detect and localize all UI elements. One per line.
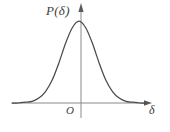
figure-container: P(δ) O δ	[0, 0, 170, 132]
gaussian-curve	[12, 21, 146, 103]
distribution-plot	[0, 0, 170, 132]
y-axis	[78, 3, 83, 118]
x-axis-label: δ	[149, 104, 155, 116]
y-axis-label: P(δ)	[46, 4, 70, 17]
origin-label: O	[66, 105, 74, 116]
y-axis-arrow-icon	[78, 3, 83, 12]
